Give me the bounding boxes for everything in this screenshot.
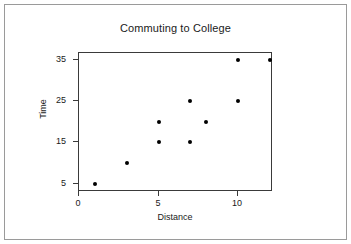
data-point xyxy=(204,120,208,124)
data-point xyxy=(125,161,129,165)
y-tick-mark xyxy=(73,100,78,101)
x-tick-label: 10 xyxy=(225,199,249,208)
y-tick-mark xyxy=(73,59,78,60)
y-tick-label: 5 xyxy=(42,179,66,188)
scatter-plot-figure: Commuting to College 5152535 0510 Distan… xyxy=(0,0,351,244)
x-tick-label: 5 xyxy=(146,199,170,208)
data-point xyxy=(268,58,272,62)
data-point xyxy=(188,140,192,144)
data-point xyxy=(236,58,240,62)
x-tick-mark xyxy=(237,191,238,196)
data-point xyxy=(188,99,192,103)
x-tick-mark xyxy=(78,191,79,196)
y-tick-label: 15 xyxy=(42,137,66,146)
x-tick-mark xyxy=(158,191,159,196)
x-tick-label: 0 xyxy=(66,199,90,208)
plot-area xyxy=(78,52,272,191)
data-point xyxy=(236,99,240,103)
data-point xyxy=(157,120,161,124)
chart-title: Commuting to College xyxy=(0,22,351,34)
data-point xyxy=(93,182,97,186)
y-tick-mark xyxy=(73,141,78,142)
x-axis-label: Distance xyxy=(78,212,272,222)
data-point xyxy=(157,140,161,144)
y-tick-label: 35 xyxy=(42,55,66,64)
y-axis-label: Time xyxy=(38,89,48,129)
y-tick-mark xyxy=(73,183,78,184)
